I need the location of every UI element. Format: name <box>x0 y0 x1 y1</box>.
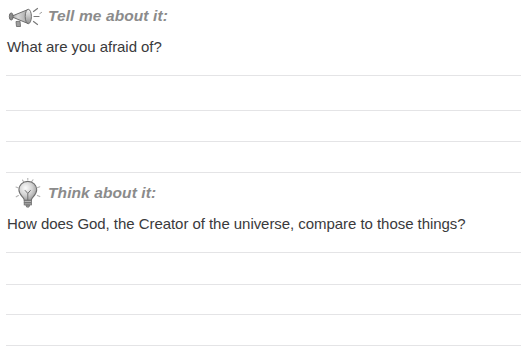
prompt-question-think-about-it: How does God, the Creator of the univers… <box>7 215 466 232</box>
write-line[interactable] <box>6 110 521 111</box>
write-line[interactable] <box>6 141 521 142</box>
prompt-section-tell-me-about-it: Tell me about it: What are you afraid of… <box>0 0 527 34</box>
write-line[interactable] <box>6 345 521 346</box>
prompt-label-think-about-it: Think about it: <box>48 184 156 202</box>
write-line[interactable] <box>6 75 521 76</box>
worksheet-page: Tell me about it: What are you afraid of… <box>0 0 527 355</box>
prompt-header: Think about it: <box>0 177 527 211</box>
prompt-header: Tell me about it: <box>0 0 527 34</box>
write-line[interactable] <box>6 284 521 285</box>
megaphone-icon <box>7 2 45 32</box>
prompt-label-tell-me-about-it: Tell me about it: <box>48 7 168 25</box>
lightbulb-icon <box>11 178 49 208</box>
prompt-question-tell-me-about-it: What are you afraid of? <box>7 38 162 55</box>
write-line[interactable] <box>6 172 521 173</box>
write-line[interactable] <box>6 314 521 315</box>
prompt-section-think-about-it: Think about it: How does God, the Creato… <box>0 177 527 211</box>
write-line[interactable] <box>6 252 521 253</box>
